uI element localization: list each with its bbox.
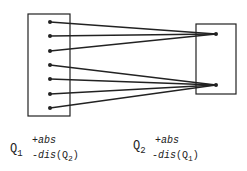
- left-box-dots: [48, 20, 52, 110]
- connection-line: [50, 34, 216, 36]
- q1-subscript: 1: [17, 149, 22, 159]
- label-q1-minus: -dis(Q2): [32, 144, 79, 162]
- connection-line: [50, 85, 216, 94]
- q1-minus-close: ): [73, 150, 79, 161]
- left-dot: [48, 106, 52, 110]
- q2-minus-arg-sub: 1: [188, 154, 193, 163]
- connection-lines: [50, 22, 216, 108]
- left-dot: [48, 77, 52, 81]
- right-dot: [214, 83, 218, 87]
- right-box-dots: [214, 32, 218, 87]
- left-dot: [48, 49, 52, 53]
- q2-minus-dis: dis: [158, 150, 176, 161]
- left-dot: [48, 63, 52, 67]
- left-dot: [48, 92, 52, 96]
- connection-line: [50, 85, 216, 108]
- left-dot: [48, 20, 52, 24]
- q2-minus-close: ): [193, 150, 199, 161]
- q1-minus-dis: dis: [38, 150, 56, 161]
- q2-minus-arg: (Q: [176, 150, 188, 161]
- left-dot: [48, 34, 52, 38]
- connection-line: [50, 22, 216, 34]
- connection-line: [50, 34, 216, 51]
- right-dot: [214, 32, 218, 36]
- label-q1: Q1: [10, 138, 23, 156]
- label-q2-minus: -dis(Q1): [152, 144, 199, 162]
- q1-minus-arg-sub: 2: [68, 154, 73, 163]
- q1-minus-arg: (Q: [56, 150, 68, 161]
- label-q2: Q2: [133, 135, 146, 153]
- q2-subscript: 2: [140, 146, 145, 156]
